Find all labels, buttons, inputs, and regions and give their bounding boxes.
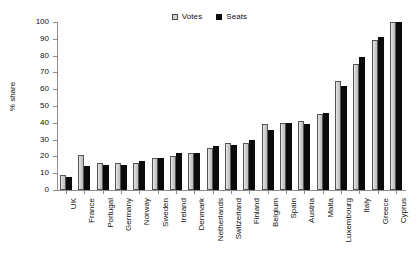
x-axis-tick-mark	[213, 190, 214, 194]
bar-group	[188, 22, 200, 190]
bar-seats	[286, 123, 292, 190]
x-axis-tick-mark	[304, 190, 305, 194]
x-axis-tick-mark	[176, 190, 177, 194]
legend-item-seats: Seats	[216, 12, 247, 21]
bar-seats	[121, 165, 127, 190]
x-axis-tick-mark	[323, 190, 324, 194]
filled-square-icon	[216, 14, 222, 20]
x-axis-tick-mark	[359, 190, 360, 194]
x-axis-tick-mark	[121, 190, 122, 194]
y-axis-tick-label: 80	[40, 51, 49, 60]
bar-seats	[378, 37, 384, 190]
x-axis-label: Denmark	[197, 198, 206, 230]
bar-seats	[66, 177, 72, 190]
y-axis-tick-label: 30	[40, 135, 49, 144]
bar-group	[335, 22, 347, 190]
plot-area	[57, 22, 405, 190]
x-axis-label: Spain	[289, 198, 298, 218]
x-axis-label: France	[87, 198, 96, 223]
bar-seats	[304, 124, 310, 190]
y-axis-tick-label: 20	[40, 151, 49, 160]
x-axis-tick-mark	[158, 190, 159, 194]
y-axis-tick-label: 100	[36, 17, 49, 26]
bar-group	[390, 22, 402, 190]
bar-seats	[249, 140, 255, 190]
x-axis-label: Netherlands	[216, 198, 225, 241]
x-axis-tick-mark	[66, 190, 67, 194]
hollow-square-icon	[172, 14, 178, 20]
bar-group	[207, 22, 219, 190]
x-axis-label: UK	[69, 198, 78, 209]
y-axis-tick-label: 40	[40, 118, 49, 127]
x-axis-label: Italy	[362, 198, 371, 213]
y-axis-tick-label: 70	[40, 67, 49, 76]
legend-item-votes: Votes	[172, 12, 203, 21]
bar-seats	[84, 166, 90, 190]
bar-seats	[231, 145, 237, 190]
bar-group	[133, 22, 145, 190]
x-axis-tick-mark	[103, 190, 104, 194]
x-axis-tick-mark	[249, 190, 250, 194]
x-axis-label: Norway	[142, 198, 151, 225]
chart-legend: Votes Seats	[0, 12, 419, 21]
bar-group	[280, 22, 292, 190]
x-axis-label: Luxembourg	[344, 198, 353, 242]
bar-seats	[176, 153, 182, 190]
x-axis-label: Belgium	[271, 198, 280, 227]
bar-seats	[213, 146, 219, 190]
x-axis-label: Portugal	[106, 198, 115, 228]
bar-group	[97, 22, 109, 190]
bar-seats	[359, 57, 365, 190]
x-axis-label: Finland	[252, 198, 261, 224]
y-axis-tick-label: 0	[45, 185, 49, 194]
legend-label-votes: Votes	[182, 12, 203, 21]
bar-seats	[323, 113, 329, 190]
bar-group	[170, 22, 182, 190]
bar-seats	[194, 153, 200, 190]
x-axis-tick-mark	[341, 190, 342, 194]
bar-group	[298, 22, 310, 190]
x-axis-tick-mark	[194, 190, 195, 194]
bar-seats	[396, 22, 402, 190]
bar-group	[60, 22, 72, 190]
y-axis-tick-label: 50	[40, 101, 49, 110]
x-axis-tick-mark	[396, 190, 397, 194]
y-axis-tick-label: 90	[40, 34, 49, 43]
bar-group	[78, 22, 90, 190]
x-axis-label: Germany	[124, 198, 133, 231]
bar-group	[152, 22, 164, 190]
x-axis-label: Sweden	[161, 198, 170, 227]
x-axis-label: Switzerland	[234, 198, 243, 239]
y-axis-tick-label: 10	[40, 168, 49, 177]
bar-seats	[158, 158, 164, 190]
bar-group	[372, 22, 384, 190]
x-axis-label: Ireland	[179, 198, 188, 222]
legend-label-seats: Seats	[226, 12, 247, 21]
bar-group	[243, 22, 255, 190]
bar-seats	[341, 86, 347, 190]
bar-seats	[268, 130, 274, 190]
x-axis-tick-mark	[139, 190, 140, 194]
x-axis-tick-mark	[378, 190, 379, 194]
bar-group	[353, 22, 365, 190]
y-axis: 0102030405060708090100	[0, 0, 57, 271]
x-axis-label: Greece	[381, 198, 390, 224]
bar-group	[115, 22, 127, 190]
bar-group	[225, 22, 237, 190]
bar-seats	[103, 165, 109, 190]
x-axis-tick-mark	[84, 190, 85, 194]
x-axis-tick-mark	[286, 190, 287, 194]
bar-group	[262, 22, 274, 190]
x-axis-label: Cyprus	[399, 198, 408, 223]
bar-chart: Votes Seats 0102030405060708090100 % sha…	[0, 0, 419, 271]
x-axis-tick-mark	[231, 190, 232, 194]
bar-group	[317, 22, 329, 190]
x-axis-tick-mark	[268, 190, 269, 194]
y-axis-tick-label: 60	[40, 84, 49, 93]
bar-seats	[139, 161, 145, 190]
x-axis-label: Malta	[326, 198, 335, 218]
y-axis-title: % share	[8, 74, 17, 120]
x-axis-label: Austria	[307, 198, 316, 223]
